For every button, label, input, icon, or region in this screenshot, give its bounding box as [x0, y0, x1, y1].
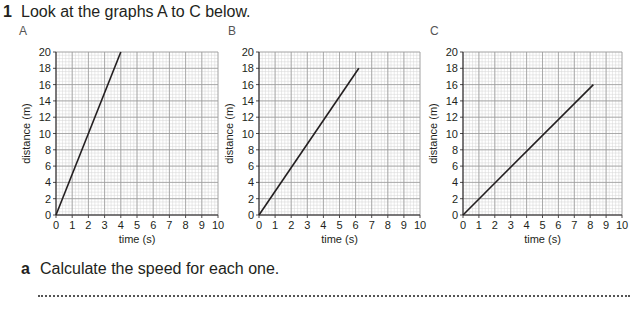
y-tick-label: 12: [39, 111, 51, 123]
y-tick-label: 14: [446, 95, 458, 107]
y-tick-label: 2: [452, 193, 458, 205]
graph-c: 01234567891002468101214161820time (s)dis…: [427, 46, 628, 245]
y-tick-label: 8: [45, 144, 51, 156]
x-tick-label: 8: [183, 219, 189, 231]
x-tick-label: 3: [508, 219, 514, 231]
graph-a: 01234567891002468101214161820time (s)dis…: [20, 46, 224, 245]
x-tick-label: 5: [134, 219, 140, 231]
x-tick-label: 3: [304, 219, 310, 231]
y-tick-label: 4: [248, 176, 254, 188]
x-tick-label: 9: [401, 219, 407, 231]
x-axis-label: time (s): [119, 233, 156, 245]
y-tick-label: 2: [45, 193, 51, 205]
y-tick-label: 12: [242, 111, 254, 123]
x-tick-label: 6: [555, 219, 561, 231]
y-axis-label: distance (m): [223, 103, 235, 164]
y-tick-label: 12: [446, 111, 458, 123]
y-tick-label: 2: [248, 193, 254, 205]
y-tick-label: 10: [446, 128, 458, 140]
x-tick-label: 9: [199, 219, 205, 231]
x-tick-label: 4: [118, 219, 124, 231]
y-tick-label: 0: [45, 209, 51, 221]
x-tick-label: 7: [166, 219, 172, 231]
y-tick-label: 20: [446, 46, 458, 58]
x-tick-label: 10: [616, 219, 628, 231]
x-tick-label: 9: [603, 219, 609, 231]
subquestion-text: Calculate the speed for each one.: [40, 260, 279, 278]
y-tick-label: 16: [39, 79, 51, 91]
y-tick-label: 8: [248, 144, 254, 156]
y-tick-label: 16: [242, 79, 254, 91]
y-tick-label: 20: [242, 46, 254, 58]
y-tick-label: 0: [248, 209, 254, 221]
y-tick-label: 20: [39, 46, 51, 58]
x-tick-label: 7: [369, 219, 375, 231]
y-tick-label: 16: [446, 79, 458, 91]
x-tick-label: 8: [587, 219, 593, 231]
y-tick-label: 10: [39, 128, 51, 140]
data-line: [259, 68, 359, 215]
subquestion-letter: a: [21, 260, 30, 278]
x-tick-label: 4: [320, 219, 326, 231]
x-tick-label: 1: [272, 219, 278, 231]
x-tick-label: 5: [336, 219, 342, 231]
graph-b: 01234567891002468101214161820time (s)dis…: [223, 46, 426, 245]
y-tick-label: 14: [39, 95, 51, 107]
x-tick-label: 1: [476, 219, 482, 231]
x-tick-label: 2: [85, 219, 91, 231]
x-tick-label: 0: [53, 219, 59, 231]
answer-line[interactable]: [38, 295, 630, 297]
x-tick-label: 3: [102, 219, 108, 231]
x-tick-label: 1: [69, 219, 75, 231]
x-tick-label: 10: [212, 219, 224, 231]
y-tick-label: 4: [45, 176, 51, 188]
x-tick-label: 4: [524, 219, 530, 231]
y-tick-label: 6: [248, 160, 254, 172]
x-axis-label: time (s): [524, 233, 561, 245]
y-tick-label: 0: [452, 209, 458, 221]
x-tick-label: 8: [385, 219, 391, 231]
graphs-area: 01234567891002468101214161820time (s)dis…: [0, 0, 638, 260]
y-tick-label: 6: [45, 160, 51, 172]
x-tick-label: 5: [539, 219, 545, 231]
x-tick-label: 6: [353, 219, 359, 231]
y-tick-label: 18: [446, 62, 458, 74]
x-tick-label: 2: [288, 219, 294, 231]
y-tick-label: 8: [452, 144, 458, 156]
x-tick-label: 2: [492, 219, 498, 231]
y-tick-label: 6: [452, 160, 458, 172]
x-axis-label: time (s): [321, 233, 358, 245]
x-tick-label: 7: [571, 219, 577, 231]
y-tick-label: 14: [242, 95, 254, 107]
y-tick-label: 10: [242, 128, 254, 140]
y-tick-label: 4: [452, 176, 458, 188]
x-tick-label: 0: [256, 219, 262, 231]
x-tick-label: 6: [150, 219, 156, 231]
x-tick-label: 0: [460, 219, 466, 231]
y-axis-label: distance (m): [20, 103, 32, 164]
y-tick-label: 18: [39, 62, 51, 74]
y-axis-label: distance (m): [427, 103, 439, 164]
x-tick-label: 10: [414, 219, 426, 231]
y-tick-label: 18: [242, 62, 254, 74]
